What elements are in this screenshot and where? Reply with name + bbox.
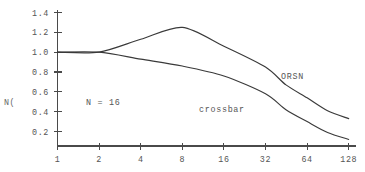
series-label-crossbar: crossbar [199,105,245,115]
chart-figure: 1.4 1.2 1.0 0.8 0.6 0.4 0.2 1 2 4 8 16 3… [0,0,365,172]
y-tick-label-1-0: 1.0 [32,48,49,58]
y-tick-label-0-6: 0.6 [32,88,49,98]
series-label-orsn: ORSN [281,72,304,82]
y-axis-title: N( [4,98,15,108]
series-line-crossbar [58,52,349,140]
y-tick-label-1-4: 1.4 [32,9,49,19]
x-tick-label-16: 16 [218,155,229,165]
y-tick-label-0-2: 0.2 [32,128,49,138]
y-tick-label-0-8: 0.8 [32,68,49,78]
y-tick-label-0-4: 0.4 [32,108,49,118]
y-tick-label-1-2: 1.2 [32,28,49,38]
x-tick-label-4: 4 [138,155,144,165]
x-tick-label-64: 64 [301,155,312,165]
x-tick-label-8: 8 [179,155,185,165]
condition-annotation: N = 16 [86,98,120,108]
x-tick-label-2: 2 [96,155,102,165]
x-tick-label-128: 128 [340,155,357,165]
line-chart-plot: 1.4 1.2 1.0 0.8 0.6 0.4 0.2 1 2 4 8 16 3… [0,0,365,172]
x-tick-label-1: 1 [55,155,61,165]
x-tick-label-32: 32 [260,155,271,165]
